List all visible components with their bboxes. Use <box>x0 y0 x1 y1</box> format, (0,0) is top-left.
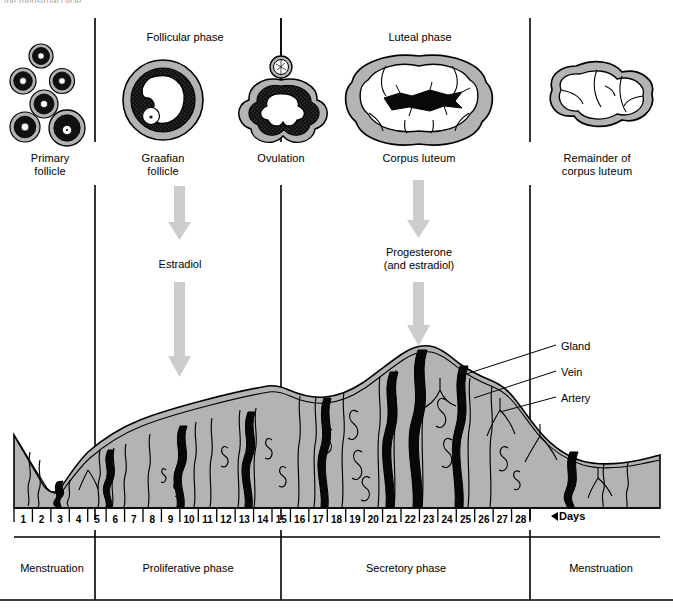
day-number: 2 <box>32 514 52 525</box>
day-number: 1 <box>13 514 33 525</box>
day-number: 14 <box>253 514 273 525</box>
day-number: 15 <box>271 514 291 525</box>
day-number: 22 <box>400 514 420 525</box>
day-number: 19 <box>345 514 365 525</box>
corpus-luteum-illustration <box>346 55 493 145</box>
label-progesterone: Progesterone (and estradiol) <box>359 246 479 272</box>
day-number: 18 <box>327 514 347 525</box>
day-number: 26 <box>474 514 494 525</box>
menstrual-cycle-figure: the menstrual cycle. <box>0 0 673 608</box>
progesterone-arrow-lower <box>407 282 430 346</box>
cycle-phase-menstruation-2: Menstruation <box>551 562 651 574</box>
day-number: 16 <box>290 514 310 525</box>
day-number: 27 <box>492 514 512 525</box>
remainder-corpus-luteum-illustration <box>550 62 652 127</box>
progesterone-arrow-upper <box>407 180 430 238</box>
day-number: 21 <box>382 514 402 525</box>
label-remainder-corpus-luteum: Remainder of corpus luteum <box>537 152 657 178</box>
day-number: 7 <box>124 514 144 525</box>
day-number: 3 <box>50 514 70 525</box>
day-number: 12 <box>216 514 236 525</box>
day-number: 5 <box>87 514 107 525</box>
day-number: 10 <box>179 514 199 525</box>
day-number: 4 <box>69 514 89 525</box>
cycle-phase-proliferative: Proliferative phase <box>118 562 258 574</box>
day-number: 17 <box>308 514 328 525</box>
estradiol-arrow-lower <box>168 282 191 377</box>
phase-header-luteal: Luteal phase <box>360 31 480 43</box>
callout-artery: Artery <box>561 392 590 404</box>
primary-follicle-cluster <box>10 44 85 146</box>
day-number: 13 <box>234 514 254 525</box>
ovulation-illustration <box>239 18 328 142</box>
callout-vein: Vein <box>561 366 582 378</box>
label-estradiol: Estradiol <box>130 258 230 271</box>
cycle-phase-menstruation-1: Menstruation <box>2 562 102 574</box>
label-ovulation: Ovulation <box>231 152 331 165</box>
label-corpus-luteum: Corpus luteum <box>354 152 484 165</box>
day-number: 25 <box>456 514 476 525</box>
day-number: 9 <box>161 514 181 525</box>
phase-header-follicular: Follicular phase <box>120 31 250 43</box>
label-primary-follicle: Primary follicle <box>5 152 95 178</box>
label-graafian-follicle: Graafian follicle <box>113 152 213 178</box>
days-axis-label: Days <box>559 510 585 522</box>
estradiol-arrow-upper <box>168 186 191 240</box>
day-number: 20 <box>363 514 383 525</box>
cycle-phase-secretory: Secretory phase <box>341 562 471 574</box>
days-arrow-icon <box>551 512 558 521</box>
day-number: 11 <box>198 514 218 525</box>
day-number: 28 <box>511 514 531 525</box>
day-number: 24 <box>437 514 457 525</box>
day-number: 8 <box>142 514 162 525</box>
graafian-follicle-illustration <box>123 60 203 140</box>
callout-gland: Gland <box>561 340 590 352</box>
day-number: 6 <box>105 514 125 525</box>
day-number: 23 <box>419 514 439 525</box>
